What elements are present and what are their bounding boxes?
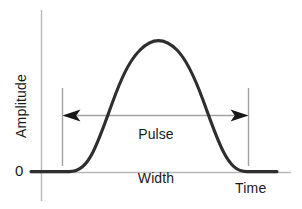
origin-zero-label: 0 bbox=[15, 163, 23, 179]
x-axis-label: Time bbox=[235, 181, 266, 196]
pulse-width-figure: Amplitude 0 Time Pulse Width bbox=[0, 0, 302, 209]
y-axis-label: Amplitude bbox=[14, 8, 30, 138]
pulse-width-annotation-line1: Pulse bbox=[106, 127, 206, 142]
pulse-width-annotation: Pulse Width bbox=[106, 98, 206, 209]
pulse-width-annotation-line2: Width bbox=[106, 171, 206, 186]
